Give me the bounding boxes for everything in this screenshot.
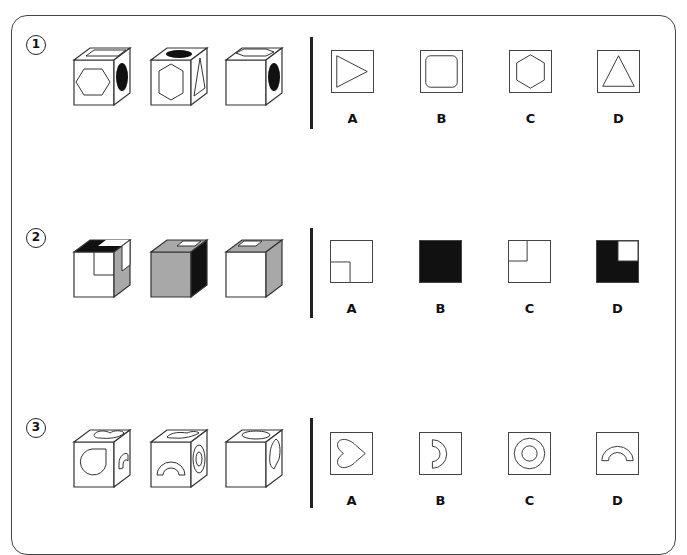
cube-3-2 [147, 425, 227, 490]
option-2-a[interactable] [330, 240, 373, 283]
option-2-b[interactable] [419, 240, 462, 283]
option-label: D [596, 301, 639, 316]
cube-3-1 [70, 425, 150, 490]
option-label: A [330, 301, 373, 316]
option-3-a[interactable] [330, 432, 373, 475]
option-label: B [420, 111, 463, 126]
cube-2-1 [70, 235, 150, 300]
cube-3-3 [222, 425, 302, 490]
option-1-c[interactable] [509, 50, 552, 93]
option-label: B [419, 301, 462, 316]
option-1-d[interactable] [597, 50, 640, 93]
option-label: D [597, 111, 640, 126]
option-3-c[interactable] [508, 432, 551, 475]
option-label: D [596, 493, 639, 508]
cube-2-3 [222, 235, 302, 300]
question-number: 3 [26, 418, 46, 438]
divider [310, 37, 313, 129]
divider [310, 418, 313, 508]
cube-1-3 [222, 43, 302, 108]
option-label: A [331, 111, 374, 126]
option-1-a[interactable] [331, 50, 374, 93]
option-label: B [419, 493, 462, 508]
option-1-b[interactable] [420, 50, 463, 93]
divider [310, 228, 313, 318]
option-2-d[interactable] [596, 240, 639, 283]
option-label: C [508, 493, 551, 508]
cube-1-1 [70, 43, 150, 108]
option-2-c[interactable] [508, 240, 551, 283]
option-label: C [508, 301, 551, 316]
option-label: C [509, 111, 552, 126]
option-3-b[interactable] [419, 432, 462, 475]
question-number: 1 [26, 35, 46, 55]
option-3-d[interactable] [596, 432, 639, 475]
option-label: A [330, 493, 373, 508]
cube-1-2 [147, 43, 227, 108]
cube-2-2 [147, 235, 227, 300]
question-number: 2 [26, 228, 46, 248]
